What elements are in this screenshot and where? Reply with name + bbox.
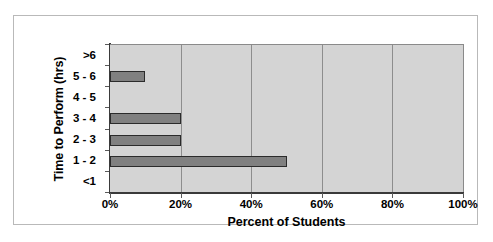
- bar[interactable]: [110, 71, 145, 82]
- y-tick-label: 3 - 4: [58, 107, 100, 128]
- x-tick-label: 0%: [80, 198, 140, 210]
- x-tick-label: 40%: [221, 198, 281, 210]
- bar-slot: [110, 87, 463, 108]
- bar[interactable]: [110, 135, 181, 146]
- y-tick-label: <1: [58, 171, 100, 192]
- x-axis-tick-labels: 0%20%40%60%80%100%: [110, 198, 463, 214]
- bar[interactable]: [110, 156, 287, 167]
- y-axis-tick-labels: >65 - 64 - 53 - 42 - 31 - 2<1: [58, 44, 100, 192]
- y-tick-label: 4 - 5: [58, 86, 100, 107]
- bars-layer: [110, 45, 463, 193]
- bar-slot: [110, 130, 463, 151]
- chart-figure: Time to Perform (hrs) >65 - 64 - 53 - 42…: [13, 15, 478, 225]
- bar-slot: [110, 151, 463, 172]
- y-tick-label: 5 - 6: [58, 65, 100, 86]
- x-tick-label: 80%: [362, 198, 422, 210]
- bar-slot: [110, 172, 463, 193]
- x-axis-title: Percent of Students: [110, 215, 463, 229]
- x-tick-label: 60%: [292, 198, 352, 210]
- x-tick-label: 20%: [151, 198, 211, 210]
- bar-slot: [110, 45, 463, 66]
- plot-area: [110, 44, 464, 193]
- x-tick-label: 100%: [433, 198, 493, 210]
- bar-slot: [110, 66, 463, 87]
- bar[interactable]: [110, 113, 181, 124]
- y-tick-label: >6: [58, 44, 100, 65]
- bar-slot: [110, 108, 463, 129]
- y-tick-label: 2 - 3: [58, 129, 100, 150]
- y-tick-label: 1 - 2: [58, 150, 100, 171]
